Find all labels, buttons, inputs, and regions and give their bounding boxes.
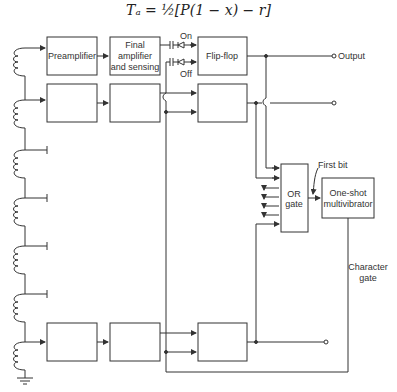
flip-flop-box-n <box>198 323 247 361</box>
coil-icon <box>14 294 26 322</box>
flip-flop-box-2 <box>198 84 247 122</box>
or-gate-label-2: gate <box>285 199 303 209</box>
coil-icon <box>14 150 26 178</box>
final-amplifier-box-2 <box>110 84 160 122</box>
character-gate-label-1: Character <box>348 262 388 272</box>
coil-icon <box>14 246 26 274</box>
preamplifier-box-n <box>47 323 97 361</box>
preamplifier-box-2 <box>47 84 97 122</box>
first-bit-label: First bit <box>318 160 348 170</box>
final-amplifier-box-n <box>110 323 160 361</box>
output-label: Output <box>338 51 366 61</box>
one-shot-label-2: multivibrator <box>323 199 372 209</box>
final-amplifier-label-2: amplifier <box>118 51 152 61</box>
on-label: On <box>180 31 192 41</box>
one-shot-multivibrator-box <box>322 178 374 218</box>
coil-icon <box>14 342 26 370</box>
character-gate-label-2: gate <box>359 273 377 283</box>
block-diagram: Preamplifier Final amplifier and sensing… <box>0 0 397 392</box>
preamplifier-label: Preamplifier <box>48 51 96 61</box>
ground-icon <box>17 378 33 384</box>
final-amplifier-label-1: Final <box>125 40 145 50</box>
coil-icon <box>14 100 26 128</box>
off-label: Off <box>180 69 192 79</box>
one-shot-label-1: One-shot <box>329 188 367 198</box>
flip-flop-label: Flip-flop <box>206 51 238 61</box>
final-amplifier-label-3: and sensing <box>111 62 160 72</box>
coil-icon <box>14 198 26 226</box>
coil-icon <box>14 48 26 76</box>
or-gate-label-1: OR <box>287 189 301 199</box>
